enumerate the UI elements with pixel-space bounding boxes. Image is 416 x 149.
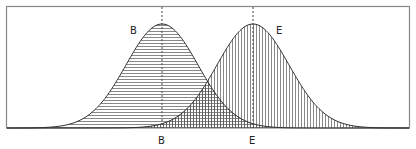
curve-e-label: E xyxy=(276,25,282,36)
axis-e-label: E xyxy=(249,135,255,146)
overlap-area xyxy=(7,24,409,128)
distribution-diagram: B E B E xyxy=(0,0,416,149)
curve-b-label: B xyxy=(130,25,137,36)
axis-b-label: B xyxy=(158,135,165,146)
